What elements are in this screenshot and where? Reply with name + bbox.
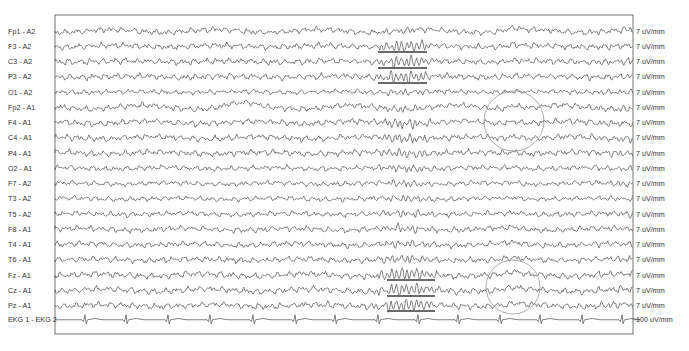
channel-label: O1 - A2 [8, 88, 32, 97]
channel-label: F7 - A2 [8, 179, 31, 188]
channel-scale: 7 uV/mm [636, 179, 665, 188]
eeg-trace [55, 118, 633, 130]
channel-scale: 7 uV/mm [636, 301, 665, 310]
channel-label: F8 - A1 [8, 225, 31, 234]
channel-label: F4 - A1 [8, 118, 31, 127]
channel-scale: 7 uV/mm [636, 286, 665, 295]
channel-scale: 7 uV/mm [636, 72, 665, 81]
eeg-trace [55, 25, 633, 35]
channel-scale: 7 uV/mm [636, 27, 665, 36]
channel-label: T3 - A2 [8, 194, 31, 203]
channel-scale: 7 uV/mm [636, 240, 665, 249]
eeg-trace [55, 179, 633, 187]
channel-label: T5 - A2 [8, 210, 31, 219]
channel-scale: 7 uV/mm [636, 225, 665, 234]
ekg-trace [55, 315, 640, 324]
eeg-chart: Fp1 - A2F3 - A2C3 - A2P3 - A2O1 - A2Fp2 … [0, 0, 689, 351]
channel-label: Cz - A1 [8, 286, 32, 295]
channel-label: P4 - A1 [8, 149, 32, 158]
channel-label: O2 - A1 [8, 164, 32, 173]
channel-scale: 7 uV/mm [636, 118, 665, 127]
eeg-trace [55, 40, 633, 52]
channel-traces [55, 25, 640, 323]
channel-label: C4 - A1 [8, 133, 32, 142]
channel-scale: 7 uV/mm [636, 149, 665, 158]
channel-label: Fz - A1 [8, 271, 31, 280]
channel-labels: Fp1 - A2F3 - A2C3 - A2P3 - A2O1 - A2Fp2 … [8, 27, 57, 325]
channel-label: T6 - A1 [8, 255, 31, 264]
channel-label: T4 - A1 [8, 240, 31, 249]
channel-scale: 7 uV/mm [636, 210, 665, 219]
eeg-trace [55, 195, 633, 202]
eeg-trace [55, 240, 633, 249]
eeg-trace [55, 299, 633, 312]
channel-label: C3 - A2 [8, 57, 32, 66]
eeg-trace [55, 210, 633, 219]
eeg-trace [55, 89, 633, 96]
channel-scale: 7 uV/mm [636, 133, 665, 142]
sharp-wave-circle [486, 260, 540, 314]
eeg-trace [55, 55, 633, 69]
channel-scale: 7 uV/mm [636, 103, 665, 112]
eeg-trace [55, 223, 633, 234]
channel-label: F3 - A2 [8, 42, 31, 51]
eeg-trace [55, 255, 633, 264]
channel-scale: 7 uV/mm [636, 42, 665, 51]
eeg-trace [55, 164, 633, 172]
eeg-trace [55, 283, 633, 296]
eeg-trace [55, 100, 633, 112]
channel-scale: 7 uV/mm [636, 57, 665, 66]
channel-scale: 7 uV/mm [636, 164, 665, 173]
channel-label: Fp1 - A2 [8, 27, 35, 36]
channel-label: Pz - A1 [8, 301, 31, 310]
channel-label: Fp2 - A1 [8, 103, 35, 112]
eeg-trace [55, 268, 633, 280]
eeg-trace [55, 71, 633, 84]
channel-label: P3 - A2 [8, 72, 32, 81]
channel-scale: 7 uV/mm [636, 271, 665, 280]
eeg-trace [55, 133, 633, 143]
channel-scale: 7 uV/mm [636, 194, 665, 203]
scale-labels: 7 uV/mm7 uV/mm7 uV/mm7 uV/mm7 uV/mm7 uV/… [636, 27, 673, 325]
channel-scale: 7 uV/mm [636, 255, 665, 264]
ekg-label: EKG 1 - EKG 2 [8, 315, 57, 324]
ekg-scale: 100 uV/mm [636, 315, 673, 324]
channel-scale: 7 uV/mm [636, 88, 665, 97]
eeg-trace [55, 148, 633, 158]
